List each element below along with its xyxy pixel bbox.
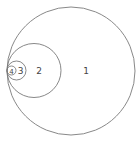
- label-circle-3: 3: [18, 66, 24, 76]
- label-circle-4: 4: [9, 68, 14, 76]
- label-circle-2: 2: [36, 66, 42, 76]
- circle-2: [7, 44, 61, 98]
- label-circle-1: 1: [83, 66, 89, 76]
- nested-circles-diagram: 1 2 3 4: [0, 0, 140, 142]
